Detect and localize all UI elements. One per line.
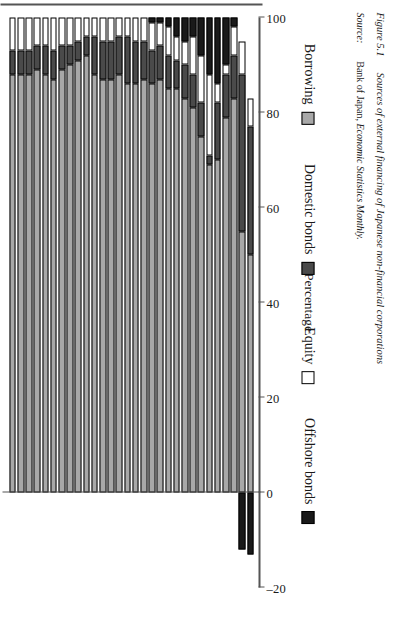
bar-segment-borrowing <box>58 69 65 492</box>
bar-segment-offshore <box>181 17 188 41</box>
legend-label: Offshore bonds <box>300 418 316 504</box>
bar-segment-borrowing <box>189 107 196 492</box>
legend-swatch-borrowing <box>302 111 315 124</box>
bar-segment-equity <box>25 17 32 50</box>
bar-segment-equity <box>173 36 180 60</box>
bar-segment-offshore <box>197 17 204 55</box>
bar-segment-borrowing <box>238 231 245 492</box>
bar-segment-offshore <box>238 492 245 549</box>
bar-segment-borrowing <box>66 65 73 493</box>
bar-segment-borrowing <box>50 79 57 492</box>
bar-row <box>230 17 237 587</box>
percentage-tick-label: 20 <box>266 392 279 405</box>
bar-row <box>91 17 98 587</box>
bar-segment-borrowing <box>206 164 213 492</box>
bar-segment-domestic <box>124 36 131 84</box>
bar-row <box>165 17 172 587</box>
bar-segment-borrowing <box>9 74 16 492</box>
bar-segment-domestic <box>238 74 245 231</box>
bar-segment-borrowing <box>222 117 229 492</box>
bar-row <box>238 17 245 587</box>
bar-segment-domestic <box>9 50 16 74</box>
bar-segment-borrowing <box>124 84 131 493</box>
bar-row <box>173 17 180 587</box>
legend-item-borrowing: Borrowing <box>300 43 316 124</box>
bar-segment-borrowing <box>74 60 81 492</box>
bar-segment-borrowing <box>140 79 147 492</box>
bar-row <box>214 17 221 587</box>
caption-line: Figure 5.1 Sources of external financing… <box>372 0 390 619</box>
bar-segment-equity <box>50 17 57 50</box>
bar-segment-domestic <box>58 46 65 70</box>
bar-segment-domestic <box>197 103 204 136</box>
bar-segment-domestic <box>214 103 221 160</box>
bar-segment-equity <box>238 41 245 74</box>
bar-segment-equity <box>74 17 81 41</box>
bar-segment-equity <box>17 17 24 50</box>
legend-label: Domestic bonds <box>300 163 316 254</box>
bar-row <box>115 17 122 587</box>
bar-segment-domestic <box>173 60 180 89</box>
bar-row <box>140 17 147 587</box>
bar-segment-domestic <box>115 36 122 74</box>
bar-segment-domestic <box>25 50 32 74</box>
bar-row <box>206 17 213 587</box>
bar-segment-equity <box>222 65 229 75</box>
bar-segment-borrowing <box>91 74 98 492</box>
bar-row <box>247 17 254 587</box>
bar-segment-borrowing <box>247 255 254 493</box>
bar-row <box>189 17 196 587</box>
bar-row <box>181 17 188 587</box>
percentage-tick-label: 0 <box>266 487 272 500</box>
bar-row <box>33 17 40 587</box>
percentage-tick <box>258 586 264 587</box>
bar-segment-offshore <box>230 17 237 27</box>
bar-segment-borrowing <box>33 69 40 492</box>
bar-row <box>197 17 204 587</box>
bar-row <box>66 17 73 587</box>
bar-segment-equity <box>91 17 98 36</box>
bar-segment-equity <box>99 17 106 41</box>
percentage-tick <box>258 206 264 207</box>
percentage-tick-label: 100 <box>266 12 285 25</box>
source-label: Source: <box>354 12 365 43</box>
bar-segment-offshore <box>189 17 196 36</box>
bar-segment-equity <box>58 17 65 46</box>
bar-row <box>25 17 32 587</box>
percentage-tick <box>258 396 264 397</box>
bar-segment-offshore <box>206 17 213 74</box>
bar-segment-borrowing <box>165 88 172 492</box>
bar-segment-borrowing <box>25 74 32 492</box>
legend-swatch-domestic <box>302 261 315 274</box>
bar-segment-equity <box>9 17 16 50</box>
bar-segment-domestic <box>33 46 40 70</box>
bar-segment-borrowing <box>99 79 106 492</box>
bar-row <box>148 17 155 587</box>
bar-segment-borrowing <box>132 84 139 493</box>
bar-segment-domestic <box>189 74 196 107</box>
bar-segment-borrowing <box>156 79 163 492</box>
source-line: Source: Bank of Japan, Economic Statisti… <box>352 0 370 619</box>
bar-segment-domestic <box>181 65 188 98</box>
percentage-tick-label: 60 <box>266 202 279 215</box>
bar-segment-domestic <box>230 55 237 98</box>
year-axis-line <box>0 3 262 5</box>
bar-row <box>132 17 139 587</box>
bar-segment-domestic <box>156 46 163 79</box>
bar-segment-equity <box>132 17 139 41</box>
bar-segment-domestic <box>74 41 81 60</box>
bar-segment-borrowing <box>197 136 204 492</box>
bar-segment-equity <box>140 17 147 41</box>
bar-row <box>17 17 24 587</box>
percentage-tick <box>258 16 264 17</box>
source-publisher: Bank of Japan, <box>354 61 365 123</box>
bar-segment-equity <box>181 41 188 65</box>
bar-segment-offshore <box>148 17 155 22</box>
bar-segment-borrowing <box>181 98 188 492</box>
bar-row <box>42 17 49 587</box>
bar-segment-domestic <box>66 46 73 65</box>
bar-segment-equity <box>214 84 221 103</box>
bar-segment-borrowing <box>17 74 24 492</box>
zero-axis-line <box>2 491 260 492</box>
bar-segment-equity <box>42 17 49 46</box>
